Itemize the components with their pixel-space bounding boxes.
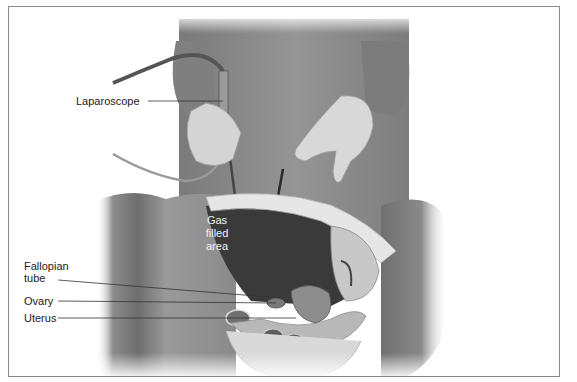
label-fallopian-line1: Fallopian xyxy=(24,260,69,272)
uterus-shape xyxy=(291,285,331,323)
label-ovary: Ovary xyxy=(24,295,53,307)
figure-caption-cut xyxy=(0,0,577,3)
label-gas-filled-area: Gas filled area xyxy=(197,214,237,253)
label-gas-line1: Gas xyxy=(197,214,237,227)
laparoscopy-illustration xyxy=(9,7,560,377)
label-gas-line3: area xyxy=(197,240,237,253)
label-fallopian-tube: Fallopian tube xyxy=(24,260,69,284)
label-gas-line2: filled xyxy=(197,227,237,240)
label-uterus: Uterus xyxy=(24,312,56,324)
label-fallopian-line2: tube xyxy=(24,272,69,284)
figure-frame: Laparoscope Gas filled area Fallopian tu… xyxy=(8,6,560,377)
label-laparoscope: Laparoscope xyxy=(76,95,140,107)
